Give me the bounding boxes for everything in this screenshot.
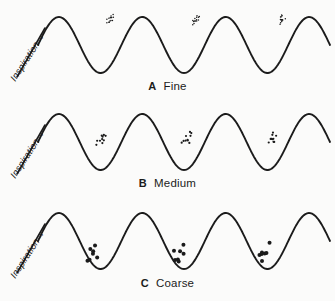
crackle-dot	[194, 18, 196, 20]
crackle-dot	[112, 20, 114, 22]
crackle-dot	[275, 135, 277, 137]
caption-word-coarse: Coarse	[156, 277, 194, 289]
crackle-dot	[281, 21, 283, 23]
crackle-dot	[260, 259, 264, 263]
crackle-dot	[172, 249, 176, 253]
crackle-dot	[272, 138, 274, 140]
crackle-dot	[270, 138, 272, 140]
crackle-dot	[185, 139, 187, 141]
crackle-cluster	[181, 131, 193, 144]
crackle-dot	[183, 140, 185, 142]
crackle-dot	[268, 241, 272, 245]
crackle-dot	[111, 17, 113, 19]
crackle-dot	[91, 252, 95, 256]
crackle-cluster	[268, 131, 278, 143]
crackle-dot	[280, 22, 282, 24]
caption-coarse: CCoarse	[0, 277, 335, 289]
caption-fine: AFine	[0, 80, 335, 92]
crackle-dot	[88, 258, 92, 262]
crackle-dot	[99, 140, 101, 142]
crackle-dot	[110, 17, 112, 19]
crackle-dot	[279, 24, 281, 26]
crackle-dot	[193, 23, 195, 25]
crackle-dot	[105, 135, 107, 137]
crackle-dot	[109, 20, 111, 22]
crackle-dot	[198, 19, 200, 21]
crackle-cluster	[279, 14, 286, 25]
crackle-cluster	[85, 244, 99, 263]
panel-coarse: Inspiration→ CCoarse	[0, 196, 335, 296]
crackle-dot	[106, 18, 108, 20]
caption-medium: BMedium	[0, 177, 335, 189]
crackle-dot	[110, 15, 112, 17]
crackle-dot	[192, 24, 194, 26]
crackle-cluster	[106, 14, 114, 24]
panel-fine: Inspiration→ AFine	[0, 0, 335, 100]
waveform-trace	[38, 213, 330, 269]
crackle-dot	[268, 141, 270, 143]
crackle-dot	[281, 14, 283, 16]
waveform-trace	[38, 114, 330, 170]
crackle-dot	[194, 20, 196, 22]
caption-letter-medium: B	[139, 177, 147, 189]
crackle-dot	[108, 18, 110, 20]
caption-letter-fine: A	[148, 80, 156, 92]
crackle-dot	[192, 20, 194, 22]
crackle-dot	[102, 136, 104, 138]
crackle-dot	[196, 16, 198, 18]
crackle-dot	[103, 139, 105, 141]
crackle-dot	[101, 142, 103, 144]
crackle-dot	[182, 252, 186, 256]
crackle-cluster	[192, 15, 200, 25]
crackle-dot	[95, 255, 99, 259]
crackle-dot	[272, 131, 274, 133]
crackle-dot	[260, 251, 264, 255]
crackle-dot	[176, 258, 180, 262]
crackle-dot	[196, 20, 198, 22]
caption-letter-coarse: C	[141, 277, 149, 289]
crackle-dot	[108, 21, 110, 23]
crackle-dot	[282, 19, 284, 21]
figure-crackle-types: Inspiration→ AFine Inspiration→ BMedium …	[0, 0, 335, 301]
crackle-dot	[178, 249, 182, 253]
crackle-dot	[181, 243, 185, 247]
crackle-cluster	[172, 243, 186, 264]
caption-word-fine: Fine	[163, 80, 186, 92]
crackle-dot	[273, 141, 275, 143]
crackle-dot	[185, 135, 187, 137]
crackle-dot	[189, 131, 191, 133]
crackle-dot	[181, 142, 183, 144]
crackle-dot	[112, 14, 114, 16]
crackle-cluster	[257, 241, 271, 263]
crackle-dot	[196, 19, 198, 21]
crackle-dot	[199, 16, 201, 18]
crackle-dot	[189, 135, 191, 137]
crackle-dot	[271, 134, 273, 136]
crackle-dot	[88, 247, 92, 251]
crackle-dot	[93, 244, 97, 248]
crackle-cluster	[95, 134, 106, 146]
crackle-dot	[186, 139, 188, 141]
crackle-dot	[188, 142, 190, 144]
crackle-dot	[285, 18, 287, 20]
crackle-dot	[95, 144, 97, 146]
caption-word-medium: Medium	[154, 177, 196, 189]
crackle-dot	[264, 251, 268, 255]
crackle-dot	[106, 22, 108, 24]
panel-medium: Inspiration→ BMedium	[0, 97, 335, 197]
crackle-dot	[113, 17, 115, 19]
crackle-dot	[96, 140, 98, 142]
crackle-dot	[196, 15, 198, 17]
waveform-trace	[38, 17, 330, 73]
